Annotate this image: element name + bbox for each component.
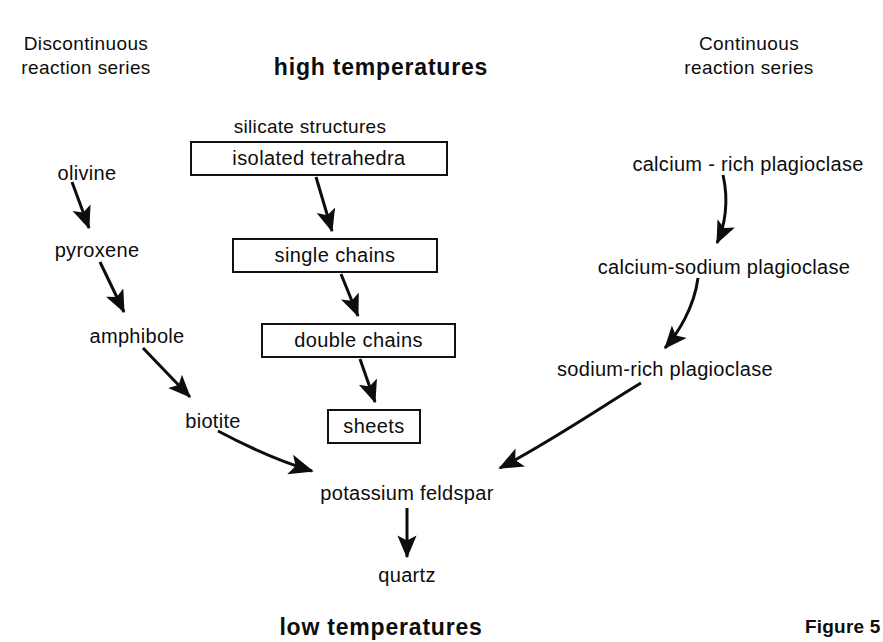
- arrow-amphibole-to-biotite: [143, 348, 190, 397]
- arrow-calcium-sodium-to-sodium-rich: [665, 278, 698, 348]
- node-calcium-rich-plagioclase: calcium - rich plagioclase: [632, 154, 863, 174]
- right-column-header-line1: Continuous: [684, 32, 814, 56]
- box-double-chains: double chains: [261, 323, 456, 358]
- silicate-structures-header: silicate structures: [234, 117, 386, 136]
- arrow-single-chains-to-double-chains: [341, 274, 358, 316]
- node-quartz: quartz: [378, 565, 435, 585]
- node-sodium-rich-plagioclase: sodium-rich plagioclase: [557, 359, 773, 379]
- arrow-pyroxene-to-amphibole: [100, 262, 124, 312]
- box-double-chains-label: double chains: [294, 329, 423, 352]
- node-amphibole: amphibole: [90, 326, 185, 346]
- arrow-olivine-to-pyroxene: [72, 182, 89, 228]
- right-column-header-line2: reaction series: [684, 56, 814, 80]
- box-single-chains-label: single chains: [275, 244, 396, 267]
- page-title-high-temperatures: high temperatures: [274, 56, 488, 79]
- right-column-header: Continuous reaction series: [684, 32, 814, 80]
- arrow-sodium-rich-to-potassium-feldspar: [500, 383, 641, 468]
- node-olivine: olivine: [58, 163, 117, 183]
- box-single-chains: single chains: [232, 238, 438, 273]
- box-sheets-label: sheets: [343, 415, 404, 438]
- box-isolated-tetrahedra: isolated tetrahedra: [190, 141, 448, 176]
- node-calcium-sodium-plagioclase: calcium-sodium plagioclase: [598, 257, 850, 277]
- arrow-calcium-rich-to-calcium-sodium: [717, 175, 726, 243]
- arrow-isolated-tetrahedra-to-single-chains: [316, 177, 332, 231]
- node-potassium-feldspar: potassium feldspar: [320, 483, 493, 503]
- diagram-canvas: Discontinuous reaction series high tempe…: [0, 0, 883, 642]
- node-biotite: biotite: [185, 411, 240, 431]
- box-sheets: sheets: [327, 409, 421, 444]
- page-title-low-temperatures: low temperatures: [279, 616, 482, 639]
- figure-caption: Figure 5: [805, 616, 881, 638]
- connector-layer: [0, 0, 883, 642]
- node-pyroxene: pyroxene: [55, 240, 140, 260]
- box-isolated-tetrahedra-label: isolated tetrahedra: [232, 147, 405, 170]
- left-column-header-line2: reaction series: [21, 56, 151, 80]
- left-column-header-line1: Discontinuous: [21, 32, 151, 56]
- arrow-biotite-to-potassium-feldspar: [218, 431, 312, 471]
- arrow-double-chains-to-sheets: [360, 359, 375, 402]
- left-column-header: Discontinuous reaction series: [21, 32, 151, 80]
